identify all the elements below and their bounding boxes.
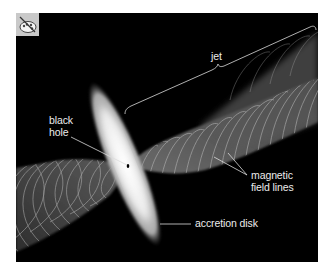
black-hole-label-line1: black xyxy=(49,115,73,127)
accretion-disk-label: accretion disk xyxy=(195,218,258,230)
palette-icon-box xyxy=(16,13,39,36)
jet-label: jet xyxy=(211,51,222,63)
black-hole-label-line2: hole xyxy=(49,127,73,139)
black-hole-label: black hole xyxy=(49,115,73,138)
upper-jet xyxy=(129,30,318,175)
magnetic-label-line2: field lines xyxy=(251,182,294,194)
palette-icon xyxy=(16,13,39,36)
magnetic-field-lines-label: magnetic field lines xyxy=(251,170,294,193)
magnetic-label-line1: magnetic xyxy=(251,170,294,182)
